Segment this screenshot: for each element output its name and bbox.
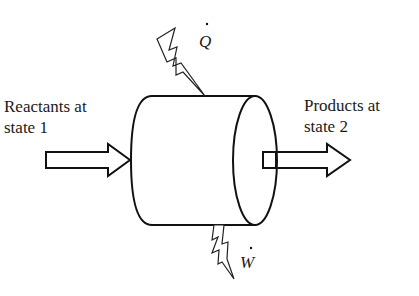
control-volume-cylinder bbox=[131, 96, 277, 225]
inlet-label-line2: state 1 bbox=[4, 118, 48, 137]
outlet-label-line2: state 2 bbox=[304, 117, 348, 136]
inlet-arrow-icon bbox=[46, 144, 130, 176]
work-rate-symbol: W bbox=[240, 253, 256, 272]
work-lightning-bolt-icon bbox=[212, 225, 234, 279]
heat-rate-symbol: Q bbox=[199, 32, 211, 51]
heat-rate-dot bbox=[206, 23, 208, 25]
outlet-label-line1: Products at bbox=[304, 96, 380, 115]
inlet-label-line1: Reactants at bbox=[4, 97, 87, 116]
work-rate-dot bbox=[250, 247, 252, 249]
heat-lightning-bolt-icon bbox=[157, 28, 205, 96]
reaction-chamber-diagram: Reactants at state 1 Products at state 2… bbox=[0, 0, 419, 296]
